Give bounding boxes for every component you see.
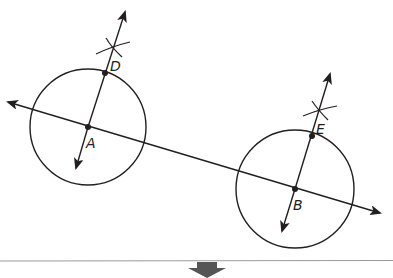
point-d — [102, 70, 108, 76]
arc-mark-d — [96, 38, 130, 57]
divider-rule — [0, 261, 393, 262]
line-ab-right — [48, 114, 380, 213]
point-b — [292, 186, 298, 192]
label-e: E — [316, 121, 325, 137]
geometry-diagram: A B D E — [0, 0, 393, 278]
arc-mark-e — [303, 101, 337, 120]
down-arrow-icon[interactable] — [188, 262, 226, 278]
line-ab — [8, 102, 48, 114]
point-e — [309, 133, 315, 139]
label-d: D — [110, 58, 121, 74]
label-b: B — [293, 197, 303, 213]
label-a: A — [85, 135, 96, 151]
point-a — [85, 124, 91, 130]
